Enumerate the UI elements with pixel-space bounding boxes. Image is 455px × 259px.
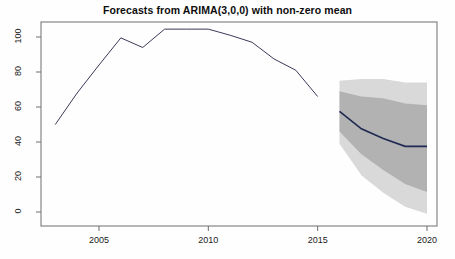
- plot-area: [0, 0, 455, 259]
- x-axis-tick-label: 2005: [79, 235, 119, 245]
- y-axis-tick-label: 20: [13, 163, 23, 189]
- y-axis-tick-label: 80: [13, 58, 23, 84]
- y-axis-tick-label: 60: [13, 93, 23, 119]
- forecast-chart-figure: Forecasts from ARIMA(3,0,0) with non-zer…: [0, 0, 455, 259]
- historical-series-line: [55, 29, 317, 124]
- y-axis-tick-label: 0: [13, 198, 23, 224]
- y-axis-tick-label: 40: [13, 128, 23, 154]
- x-axis-tick-label: 2020: [407, 235, 447, 245]
- y-axis-tick-label: 100: [13, 23, 23, 49]
- x-axis-tick-label: 2015: [298, 235, 338, 245]
- x-axis-tick-label: 2010: [188, 235, 228, 245]
